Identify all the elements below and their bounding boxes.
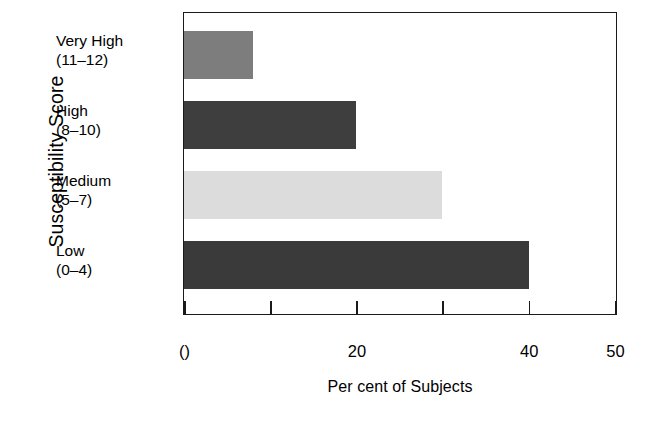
bar-chart: Susceptibility Score Very High (11–12) H… <box>0 0 649 425</box>
category-label-line1: High <box>56 101 178 120</box>
x-tick-mark <box>615 301 617 314</box>
x-tick-mark <box>356 301 358 314</box>
x-tick-label: 20 <box>348 342 366 361</box>
x-tick-mark <box>184 301 186 314</box>
category-label-line2: (5–7) <box>56 190 178 209</box>
x-tick-mark <box>529 301 531 314</box>
category-label-line1: Very High <box>56 31 178 50</box>
category-label-line2: (8–10) <box>56 120 178 139</box>
category-label-line2: (11–12) <box>56 50 178 69</box>
bar-high <box>184 101 356 149</box>
bar-low <box>184 241 529 289</box>
category-label-group: Very High (11–12) High (8–10) Medium (5–… <box>56 12 178 315</box>
x-tick-mark <box>442 301 444 314</box>
category-label-line1: Medium <box>56 171 178 190</box>
category-label-low: Low (0–4) <box>56 241 178 279</box>
category-label-medium: Medium (5–7) <box>56 171 178 209</box>
x-tick-label: 50 <box>606 342 624 361</box>
plot-area <box>183 12 617 315</box>
x-tick-mark <box>270 301 272 314</box>
category-label-line2: (0–4) <box>56 260 178 279</box>
x-axis-title: Per cent of Subjects <box>183 378 617 396</box>
category-label-high: High (8–10) <box>56 101 178 139</box>
x-tick-label: () <box>179 342 190 361</box>
x-tick-label: 40 <box>520 342 538 361</box>
category-label-line1: Low <box>56 241 178 260</box>
bar-very-high <box>184 31 253 79</box>
bar-medium <box>184 171 442 219</box>
x-tick-label-group: ()204050 <box>183 342 617 366</box>
category-label-very-high: Very High (11–12) <box>56 31 178 69</box>
